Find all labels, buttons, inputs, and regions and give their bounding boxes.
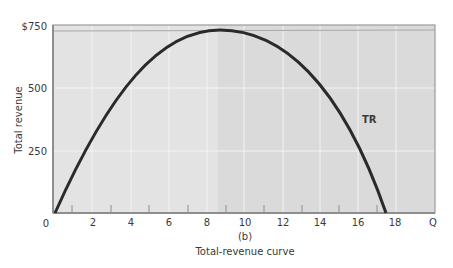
x-tick-4: 4 xyxy=(128,217,134,228)
x-tick-10: 10 xyxy=(239,217,252,228)
x-tick-14: 14 xyxy=(314,217,327,228)
x-tick-2: 2 xyxy=(90,217,96,228)
y-axis-label: Total revenue xyxy=(13,86,24,154)
chart-caption: Total-revenue curve xyxy=(194,246,294,257)
y-tick-500: 500 xyxy=(28,83,47,94)
tr-curve-label: TR xyxy=(362,114,377,125)
x-tick-18: 18 xyxy=(389,217,402,228)
x-axis-label-q: Q xyxy=(429,217,437,228)
x-tick-0: 0 xyxy=(43,218,49,229)
x-tick-16: 16 xyxy=(352,217,365,228)
total-revenue-chart: TR $750 500 250 Total revenue 0 2 4 6 8 … xyxy=(0,0,453,268)
y-tick-250: 250 xyxy=(28,146,47,157)
y-tick-750: $750 xyxy=(22,21,47,32)
panel-label: (b) xyxy=(238,231,252,242)
x-tick-8: 8 xyxy=(204,217,210,228)
x-tick-12: 12 xyxy=(277,217,290,228)
x-tick-6: 6 xyxy=(166,217,172,228)
plot-area-shaded-right xyxy=(218,25,435,213)
